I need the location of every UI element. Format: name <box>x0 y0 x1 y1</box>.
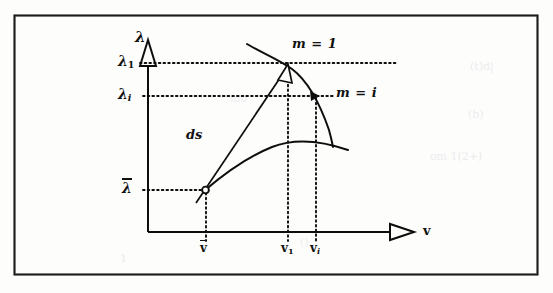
x-tick-subscript-v1: 1 <box>288 246 294 256</box>
vector-ds-line <box>196 69 286 203</box>
y-tick-label-lambdai: λi <box>118 87 131 103</box>
x-tick-label-vi: vi <box>310 242 320 255</box>
overbar <box>200 240 207 241</box>
y-tick-subscript-lambdai: i <box>128 92 132 103</box>
x-tick-label-v1: v1 <box>281 242 294 255</box>
overbar <box>122 178 132 179</box>
y-tick-base-lambda1: λ <box>118 53 128 69</box>
figure-canvas <box>0 0 553 293</box>
curve-label-m-equals-1: m = 1 <box>292 37 337 50</box>
x-tick-base-vi: v <box>310 241 317 255</box>
vector-label-ds: ds <box>186 128 202 141</box>
y-tick-label-lambdabar: λ <box>122 181 132 195</box>
x-tick-base-v1: v <box>281 241 288 255</box>
y-tick-subscript-lambda1: 1 <box>128 59 135 70</box>
curve-label-m-equals-i: m = i <box>336 86 377 99</box>
y-tick-base-lambdai: λ <box>118 86 128 102</box>
x-axis-label: v <box>423 224 431 237</box>
marker-start-point <box>202 187 209 194</box>
x-axis-arrowhead-icon <box>390 224 414 240</box>
curve-m-equals-i <box>204 142 348 191</box>
y-tick-base-lambdabar: λ <box>122 180 132 196</box>
y-axis-label: λ <box>135 30 146 45</box>
x-tick-label-vbar: v <box>200 242 207 254</box>
x-tick-base-vbar: v <box>200 241 207 255</box>
y-tick-label-lambda1: λ1 <box>118 54 134 70</box>
x-tick-subscript-vi: i <box>317 246 320 256</box>
